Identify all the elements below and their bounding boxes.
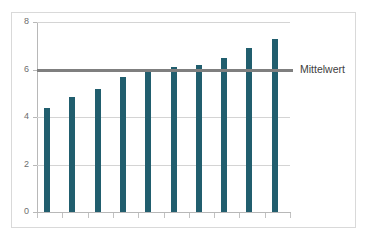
y-tick-label: 4 xyxy=(5,112,29,121)
x-tick-mark xyxy=(138,213,139,218)
x-tick-mark xyxy=(62,213,63,218)
x-tick-mark xyxy=(88,213,89,218)
bar xyxy=(272,39,278,212)
bar xyxy=(69,97,75,212)
bar xyxy=(120,77,126,212)
x-tick-mark xyxy=(189,213,190,218)
bar xyxy=(246,48,252,212)
y-tick-label: 0 xyxy=(5,207,29,216)
bar xyxy=(171,67,177,212)
bar xyxy=(221,58,227,212)
plot-area xyxy=(37,22,290,212)
x-tick-mark xyxy=(164,213,165,218)
y-tick-label: 2 xyxy=(5,160,29,169)
chart-container: 02468 Mittelwert xyxy=(0,0,370,240)
mean-reference-label: Mittelwert xyxy=(300,64,345,75)
x-tick-mark xyxy=(113,213,114,218)
x-tick-mark xyxy=(37,213,38,218)
bar xyxy=(196,65,202,212)
bar xyxy=(145,72,151,212)
x-tick-mark xyxy=(239,213,240,218)
bar xyxy=(44,108,50,213)
x-tick-mark xyxy=(214,213,215,218)
mean-reference-line xyxy=(37,69,293,72)
bar xyxy=(95,89,101,213)
y-tick-label: 6 xyxy=(5,65,29,74)
y-tick-label: 8 xyxy=(5,17,29,26)
x-tick-mark xyxy=(290,213,291,218)
x-tick-mark xyxy=(265,213,266,218)
